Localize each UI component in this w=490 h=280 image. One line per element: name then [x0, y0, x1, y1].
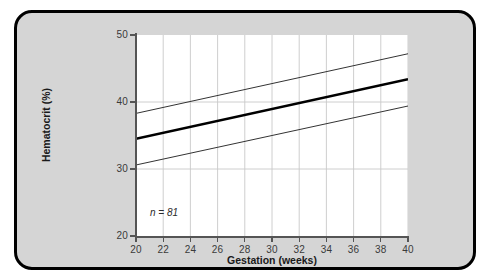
sample-size-annotation: n = 81 [150, 207, 178, 218]
x-tick-mark [163, 237, 164, 242]
y-tick-label: 30 [104, 163, 128, 174]
x-tick-mark [271, 237, 272, 242]
plot-area: n = 81 [136, 35, 408, 236]
y-tick-label: 40 [104, 96, 128, 107]
y-tick-label: 20 [104, 230, 128, 241]
y-tick-mark [130, 168, 136, 169]
x-tick-mark [190, 237, 191, 242]
y-tick-mark [130, 34, 136, 35]
y-tick-mark [130, 101, 136, 102]
x-tick-mark [380, 237, 381, 242]
x-tick-mark [299, 237, 300, 242]
x-tick-mark [326, 237, 327, 242]
x-tick-mark [407, 237, 408, 242]
x-tick-mark [353, 237, 354, 242]
data-lines [136, 35, 408, 236]
x-axis-title: Gestation (weeks) [136, 254, 408, 266]
x-tick-mark [217, 237, 218, 242]
plot-wrapper: n = 81 20304050 2022242628303234363840 G… [17, 13, 479, 273]
figure-frame: n = 81 20304050 2022242628303234363840 G… [14, 10, 476, 270]
y-axis-title: Hematocrit (%) [40, 65, 52, 185]
x-tick-mark [135, 237, 136, 242]
x-tick-mark [244, 237, 245, 242]
y-axis-spine [135, 33, 137, 238]
y-tick-label: 50 [104, 29, 128, 40]
